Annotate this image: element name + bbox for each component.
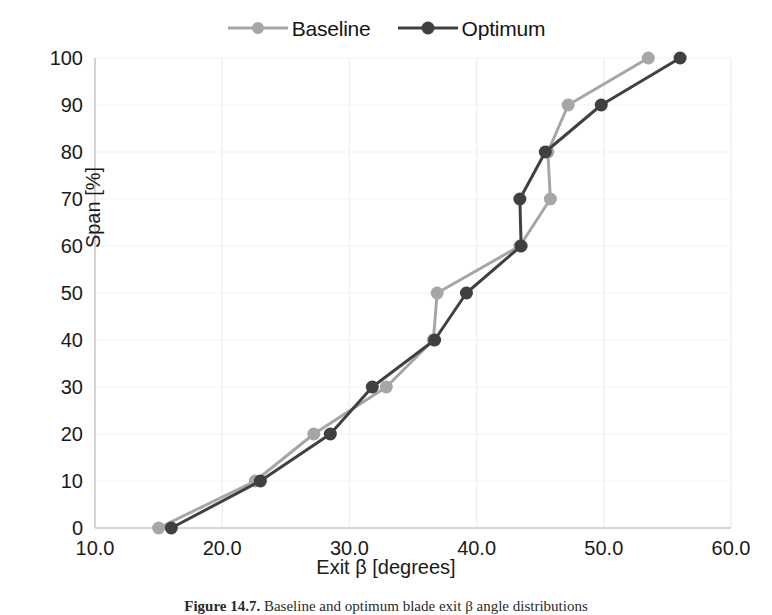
figure-caption: Figure 14.7. Baseline and optimum blade … xyxy=(0,598,772,615)
data-point-marker[interactable] xyxy=(254,475,267,488)
y-axis-label: Span [%] xyxy=(82,113,105,303)
y-tick-label: 90 xyxy=(61,94,83,116)
y-tick-label: 30 xyxy=(61,376,83,398)
y-tick-label: 40 xyxy=(61,329,83,351)
figure-caption-text: Baseline and optimum blade exit β angle … xyxy=(260,598,588,614)
y-axis-tick-labels: 0102030405060708090100 xyxy=(50,47,83,539)
y-tick-label: 80 xyxy=(61,141,83,163)
y-tick-label: 50 xyxy=(61,282,83,304)
horizontal-gridlines xyxy=(95,58,731,481)
data-point-marker[interactable] xyxy=(428,334,441,347)
x-axis-label: Exit β [degrees] xyxy=(0,556,772,579)
figure-container: Baseline Optimum 0102030405060708090100 … xyxy=(0,0,772,615)
line-chart: 0102030405060708090100 10.020.030.040.05… xyxy=(0,0,772,560)
y-tick-label: 70 xyxy=(61,188,83,210)
data-point-marker[interactable] xyxy=(431,287,444,300)
data-point-marker[interactable] xyxy=(366,381,379,394)
data-point-marker[interactable] xyxy=(562,99,575,112)
data-point-marker[interactable] xyxy=(539,146,552,159)
data-point-marker[interactable] xyxy=(515,240,528,253)
data-point-marker[interactable] xyxy=(460,287,473,300)
data-point-marker[interactable] xyxy=(324,428,337,441)
y-tick-label: 20 xyxy=(61,423,83,445)
y-tick-label: 60 xyxy=(61,235,83,257)
data-point-marker[interactable] xyxy=(165,522,178,535)
data-point-marker[interactable] xyxy=(595,99,608,112)
data-point-marker[interactable] xyxy=(380,381,393,394)
data-point-marker[interactable] xyxy=(674,52,687,65)
figure-caption-number: Figure 14.7. xyxy=(184,598,260,614)
data-point-marker[interactable] xyxy=(307,428,320,441)
data-point-marker[interactable] xyxy=(152,522,165,535)
y-tick-label: 10 xyxy=(61,470,83,492)
data-point-marker[interactable] xyxy=(513,193,526,206)
plot-area-wrapper: 0102030405060708090100 10.020.030.040.05… xyxy=(0,0,772,560)
data-point-marker[interactable] xyxy=(544,193,557,206)
data-point-marker[interactable] xyxy=(642,52,655,65)
y-tick-label: 0 xyxy=(72,517,83,539)
y-tick-label: 100 xyxy=(50,47,83,69)
